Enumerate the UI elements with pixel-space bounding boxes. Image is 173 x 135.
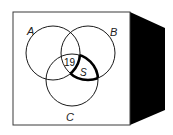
- set-label-a: A: [26, 25, 34, 37]
- venn-diagram: A B C 19 S: [0, 0, 173, 135]
- box-side-panel: [130, 12, 165, 125]
- set-label-b: B: [110, 26, 117, 38]
- set-label-c: C: [66, 111, 74, 123]
- region-abc-value: 19: [64, 57, 76, 68]
- region-s-label: S: [80, 67, 87, 78]
